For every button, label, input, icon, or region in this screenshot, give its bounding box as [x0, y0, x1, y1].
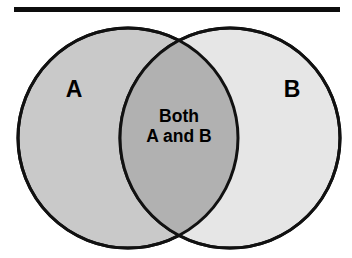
intersection-label-line-1: Both	[159, 106, 199, 126]
venn-diagram-figure: A B Both A and B	[0, 0, 352, 258]
intersection-label-line-2: A and B	[146, 126, 211, 146]
set-a-label: A	[66, 76, 83, 102]
set-b-label: B	[284, 76, 301, 102]
venn-diagram-canvas: A B Both A and B	[0, 0, 352, 258]
top-horizontal-rule	[14, 7, 340, 12]
